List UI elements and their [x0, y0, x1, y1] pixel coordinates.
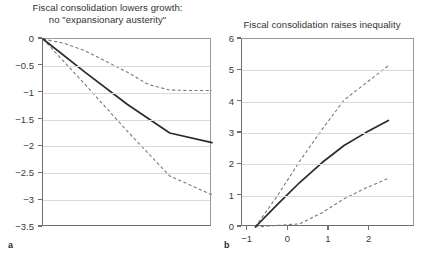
plot-area-b — [241, 38, 414, 226]
x-axis-label-b-1: 0 — [285, 233, 290, 244]
gridline-a-3 — [43, 120, 210, 121]
y-axis-label-a-6: −3 — [0, 194, 34, 205]
y-axis-label-a-4: −2 — [0, 140, 34, 151]
y-axis-label-a-0: 0 — [0, 33, 34, 44]
y-axis-label-b-3: 3 — [215, 127, 234, 138]
chart-title-a: Fiscal consolidation lowers growth: no "… — [0, 2, 215, 25]
chart-panel-b: Fiscal consolidation raises inequality 6… — [215, 0, 429, 266]
gridline-b-4 — [242, 102, 413, 103]
panel-letter-b: b — [224, 240, 230, 250]
y-axis-label-a-2: −1 — [0, 86, 34, 97]
chart-title-b: Fiscal consolidation raises inequality — [215, 19, 429, 31]
x-axis-label-b-3: 2 — [366, 233, 371, 244]
y-axis-label-a-5: −2.5 — [0, 167, 34, 178]
x-axis-label-b-0: −1 — [241, 233, 252, 244]
panel-letter-a: a — [8, 240, 13, 250]
chart-title-a-line2: no "expansionary austerity" — [0, 14, 215, 26]
gridline-a-1 — [43, 66, 210, 67]
y-axis-label-a-7: −3.5 — [0, 221, 34, 232]
y-axis-label-b-2: 2 — [215, 158, 234, 169]
series-line-a-upper — [43, 39, 212, 91]
y-axis-label-b-0: 0 — [215, 221, 234, 232]
gridline-a-6 — [43, 200, 210, 201]
series-line-b-estimate — [255, 120, 388, 227]
series-line-b-upper — [255, 66, 388, 227]
y-axis-label-b-1: 1 — [215, 189, 234, 200]
gridline-b-5 — [242, 70, 413, 71]
gridline-a-4 — [43, 146, 210, 147]
gridline-a-2 — [43, 93, 210, 94]
plot-area-a — [42, 38, 211, 226]
series-line-a-estimate — [43, 39, 212, 143]
chart-title-a-line1: Fiscal consolidation lowers growth: — [0, 2, 215, 14]
chart-panel-a: Fiscal consolidation lowers growth: no "… — [0, 0, 215, 266]
gridline-b-3 — [242, 133, 413, 134]
y-axis-label-b-4: 4 — [215, 95, 234, 106]
figure-two-panel-chart: Fiscal consolidation lowers growth: no "… — [0, 0, 429, 266]
y-axis-label-b-6: 6 — [215, 33, 234, 44]
series-svg-a — [43, 39, 212, 227]
x-axis-label-b-2: 1 — [325, 233, 330, 244]
series-line-a-lower — [43, 39, 212, 195]
gridline-b-1 — [242, 196, 413, 197]
y-axis-label-a-1: −0.5 — [0, 59, 34, 70]
series-line-b-lower — [255, 178, 388, 227]
gridline-a-5 — [43, 173, 210, 174]
gridline-b-2 — [242, 164, 413, 165]
y-axis-label-b-5: 5 — [215, 64, 234, 75]
y-axis-label-a-3: −1.5 — [0, 113, 34, 124]
